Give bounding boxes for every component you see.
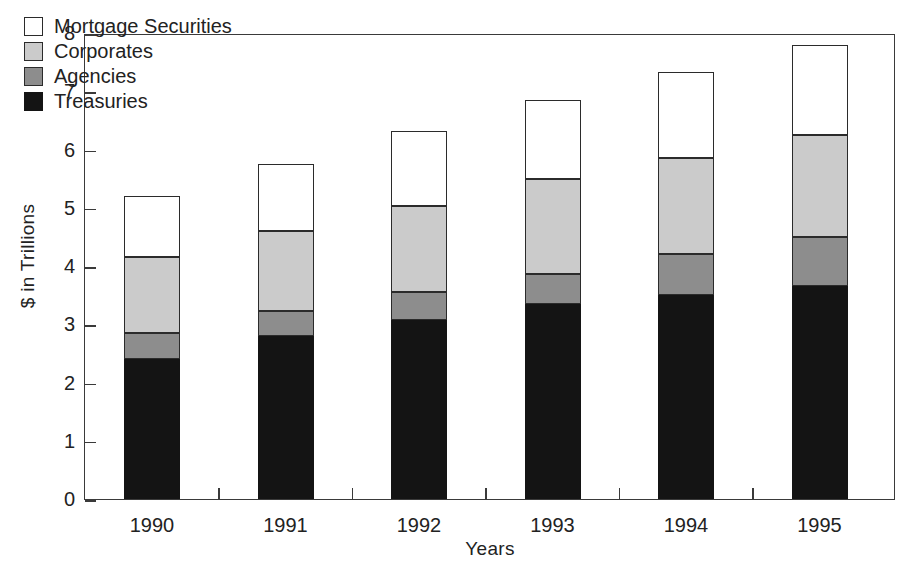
bar-segment-treasuries bbox=[391, 320, 447, 499]
y-tick-mark bbox=[85, 325, 96, 327]
y-tick-label: 3 bbox=[37, 313, 75, 336]
bar-segment-corporates bbox=[525, 179, 581, 274]
y-tick-label: 0 bbox=[37, 488, 75, 511]
x-tick-mark bbox=[218, 488, 220, 499]
bar-segment-treasuries bbox=[258, 336, 314, 499]
bar-1995 bbox=[792, 33, 848, 499]
y-tick-label: 1 bbox=[37, 430, 75, 453]
bar-segment-corporates bbox=[792, 135, 848, 237]
bar-segment-mortgage bbox=[124, 196, 180, 257]
x-tick-mark bbox=[485, 488, 487, 499]
x-tick-label: 1992 bbox=[364, 514, 474, 537]
y-tick-label: 4 bbox=[37, 255, 75, 278]
bar-segment-corporates bbox=[658, 158, 714, 254]
x-tick-label: 1991 bbox=[231, 514, 341, 537]
bar-segment-mortgage bbox=[258, 164, 314, 231]
bar-segment-treasuries bbox=[792, 286, 848, 499]
y-tick-label: 5 bbox=[37, 197, 75, 220]
bar-1994 bbox=[658, 33, 714, 499]
legend-item-mortgage: Mortgage Securities bbox=[24, 14, 232, 39]
legend-label-corporates: Corporates bbox=[54, 40, 153, 63]
y-tick-mark bbox=[85, 209, 96, 211]
y-tick-mark bbox=[85, 267, 96, 269]
bar-segment-treasuries bbox=[658, 295, 714, 499]
y-tick-label: 6 bbox=[37, 139, 75, 162]
x-tick-label: 1990 bbox=[97, 514, 207, 537]
legend-item-treasuries: Treasuries bbox=[24, 89, 232, 114]
bar-segment-treasuries bbox=[124, 359, 180, 499]
y-tick-mark bbox=[85, 442, 96, 444]
bar-segment-mortgage bbox=[658, 72, 714, 158]
x-tick-label: 1995 bbox=[765, 514, 875, 537]
bar-segment-mortgage bbox=[391, 131, 447, 206]
bar-segment-corporates bbox=[258, 231, 314, 311]
y-tick-label: 2 bbox=[37, 372, 75, 395]
chart-legend: Mortgage SecuritiesCorporatesAgenciesTre… bbox=[24, 14, 232, 114]
bar-segment-corporates bbox=[391, 206, 447, 292]
bar-segment-agencies bbox=[658, 254, 714, 295]
legend-swatch-treasuries bbox=[24, 92, 43, 111]
bar-1993 bbox=[525, 33, 581, 499]
x-tick-mark bbox=[352, 488, 354, 499]
y-tick-mark bbox=[85, 151, 96, 153]
bar-segment-agencies bbox=[258, 311, 314, 335]
bar-segment-agencies bbox=[525, 274, 581, 304]
legend-swatch-mortgage bbox=[24, 17, 43, 36]
bar-segment-treasuries bbox=[525, 304, 581, 499]
stacked-bar-chart: $ in Trillions 012345678 199019911992199… bbox=[0, 0, 921, 574]
x-tick-label: 1993 bbox=[498, 514, 608, 537]
legend-label-mortgage: Mortgage Securities bbox=[54, 15, 232, 38]
bar-segment-agencies bbox=[792, 237, 848, 287]
x-axis-title: Years bbox=[84, 538, 896, 560]
legend-swatch-agencies bbox=[24, 67, 43, 86]
y-tick-mark bbox=[85, 384, 96, 386]
legend-item-corporates: Corporates bbox=[24, 39, 232, 64]
x-tick-mark bbox=[752, 488, 754, 499]
bar-segment-corporates bbox=[124, 257, 180, 333]
bar-segment-agencies bbox=[391, 292, 447, 319]
y-axis-title: $ in Trillions bbox=[17, 166, 39, 346]
bar-1992 bbox=[391, 33, 447, 499]
legend-swatch-corporates bbox=[24, 42, 43, 61]
bar-segment-mortgage bbox=[792, 45, 848, 135]
y-tick-mark bbox=[85, 500, 96, 502]
legend-label-agencies: Agencies bbox=[54, 65, 136, 88]
bar-1991 bbox=[258, 33, 314, 499]
legend-item-agencies: Agencies bbox=[24, 64, 232, 89]
x-tick-label: 1994 bbox=[631, 514, 741, 537]
x-tick-mark bbox=[619, 488, 621, 499]
bar-segment-agencies bbox=[124, 333, 180, 359]
bar-segment-mortgage bbox=[525, 100, 581, 179]
legend-label-treasuries: Treasuries bbox=[54, 90, 148, 113]
